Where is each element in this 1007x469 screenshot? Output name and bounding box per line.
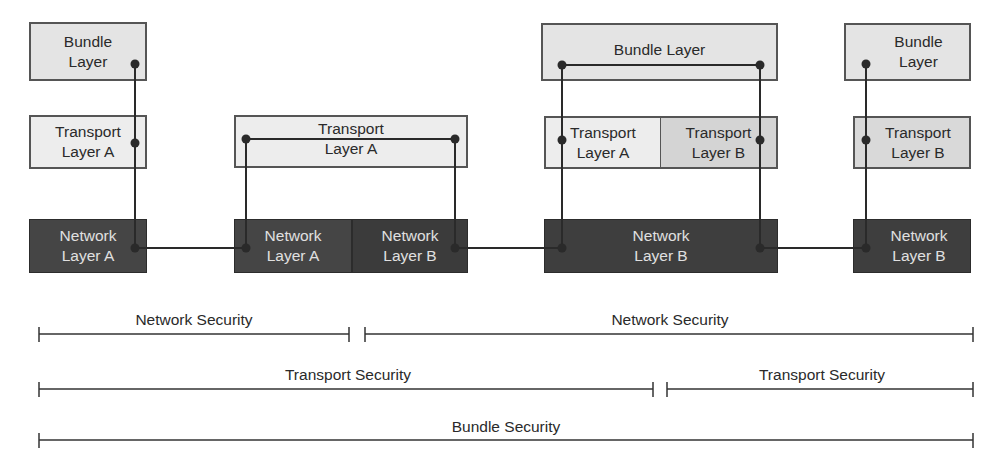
connection-paths bbox=[0, 0, 1007, 469]
transport-security-label-2: Transport Security bbox=[759, 366, 885, 384]
security-layers-diagram: Bundle Layer Transport Layer A Network L… bbox=[0, 0, 1007, 469]
transport-security-label-1: Transport Security bbox=[285, 366, 411, 384]
bundle-security-label: Bundle Security bbox=[452, 418, 561, 436]
network-security-label-1: Network Security bbox=[135, 311, 252, 329]
network-security-label-2: Network Security bbox=[611, 311, 728, 329]
